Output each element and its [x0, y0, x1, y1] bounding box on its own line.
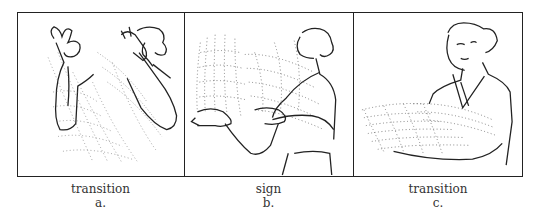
- caption-b: sign b.: [184, 182, 353, 210]
- caption-b-label: sign: [184, 182, 353, 196]
- caption-a: transition a.: [17, 182, 184, 210]
- panel-b: [185, 13, 354, 176]
- caption-a-label: transition: [17, 182, 184, 196]
- illustration-sign-b-icon: [185, 13, 353, 176]
- illustration-transition-a-icon: [18, 13, 184, 176]
- illustration-transition-c-icon: [354, 13, 522, 176]
- caption-c-label: transition: [353, 182, 523, 196]
- figure-frame: [17, 12, 523, 177]
- caption-b-letter: b.: [184, 196, 353, 210]
- panel-c: [354, 13, 522, 176]
- motion-trail-dots-a: [48, 53, 162, 164]
- panel-a: [18, 13, 185, 176]
- caption-a-letter: a.: [17, 196, 184, 210]
- caption-c-letter: c.: [353, 196, 523, 210]
- caption-c: transition c.: [353, 182, 523, 210]
